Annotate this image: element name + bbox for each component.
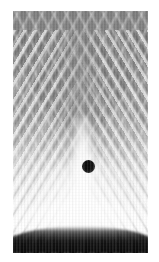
figure-root [0, 0, 159, 262]
image-grain [13, 11, 148, 253]
grayscale-image-plate [13, 11, 148, 253]
